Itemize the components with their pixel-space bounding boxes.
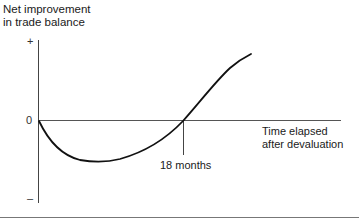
x-axis-label: Time elapsed after devaluation: [262, 125, 343, 150]
x-axis-label-line1: Time elapsed: [262, 125, 343, 138]
eighteen-month-label: 18 months: [160, 159, 211, 171]
chart-plot: [0, 0, 359, 221]
j-curve-line: [39, 54, 251, 161]
x-axis-label-line2: after devaluation: [262, 138, 343, 151]
